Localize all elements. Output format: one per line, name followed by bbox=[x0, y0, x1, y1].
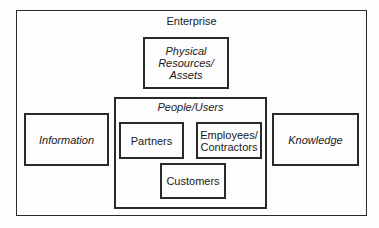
physical-resources-label-line-3: Assets bbox=[158, 69, 214, 81]
information-box: Information bbox=[24, 113, 109, 166]
enterprise-label: Enterprise bbox=[16, 15, 367, 27]
people-users-label: People/Users bbox=[114, 101, 267, 113]
employees-label-line-1: Employees/ bbox=[200, 129, 257, 141]
partners-box: Partners bbox=[119, 122, 184, 159]
customers-box: Customers bbox=[160, 163, 226, 199]
partners-label: Partners bbox=[131, 135, 173, 147]
employees-contractors-box: Employees/ Contractors bbox=[196, 122, 262, 159]
employees-label-line-2: Contractors bbox=[200, 141, 257, 153]
knowledge-box: Knowledge bbox=[272, 113, 359, 166]
physical-resources-box: Physical Resources/ Assets bbox=[143, 37, 229, 89]
physical-resources-label-line-2: Resources/ bbox=[158, 57, 214, 69]
knowledge-label: Knowledge bbox=[288, 134, 342, 146]
physical-resources-label-line-1: Physical bbox=[158, 45, 214, 57]
customers-label: Customers bbox=[166, 175, 219, 187]
information-label: Information bbox=[39, 134, 94, 146]
